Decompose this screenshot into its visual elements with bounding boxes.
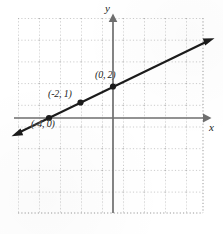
coordinate-plane: [0, 0, 223, 234]
point-label-0-2: (0, 2): [95, 69, 115, 80]
point-label-minus4-0: (-4, 0): [31, 118, 55, 129]
data-point-marker: [110, 83, 116, 89]
y-axis-label: y: [105, 2, 110, 14]
data-point-marker: [77, 99, 83, 105]
grid: [18, 18, 203, 213]
x-axis-label: x: [209, 121, 214, 133]
point-label-minus2-1: (-2, 1): [48, 88, 72, 99]
graph-figure: (0, 2) (-2, 1) (-4, 0) y x: [0, 0, 223, 234]
